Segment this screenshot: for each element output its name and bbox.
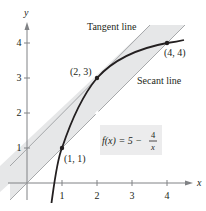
point-label-4-4: (4, 4) (164, 47, 186, 59)
chart: 1 2 3 4 1 2 3 4 x y (1, 1) (2, 3) (4, 4)… (0, 0, 206, 211)
x-axis-arrow-icon (185, 181, 193, 186)
formula-denominator: x (150, 142, 155, 152)
formula-leader-line (96, 112, 103, 118)
point-4-4 (165, 41, 169, 45)
secant-line-label: Secant line (137, 75, 182, 86)
x-axis-label: x (196, 177, 202, 188)
y-axis-arrow-icon (25, 22, 30, 30)
x-tick-label-1: 1 (60, 190, 65, 201)
point-label-1-1: (1, 1) (64, 153, 86, 165)
point-2-3 (95, 76, 99, 80)
x-tick-label-2: 2 (95, 190, 100, 201)
x-tick-label-4: 4 (165, 190, 170, 201)
point-label-2-3: (2, 3) (70, 66, 92, 78)
tangent-line-label: Tangent line (87, 21, 137, 32)
y-tick-label-4: 4 (17, 37, 22, 48)
y-tick-label-1: 1 (17, 142, 22, 153)
y-axis-label: y (23, 7, 29, 18)
y-tick-label-2: 2 (17, 107, 22, 118)
formula-lhs: f(x) = 5 − (102, 135, 142, 147)
x-tick-label-3: 3 (130, 190, 135, 201)
point-1-1 (60, 146, 64, 150)
y-tick-label-3: 3 (17, 72, 22, 83)
